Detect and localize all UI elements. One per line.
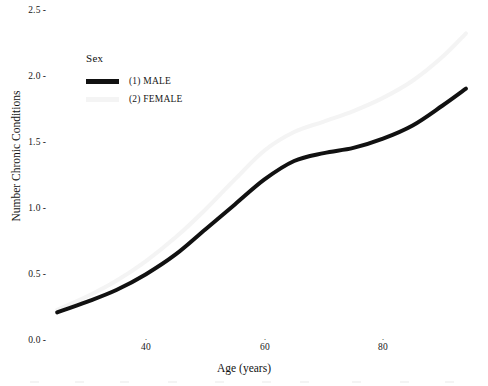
x-tick-40: · 40 (131, 337, 161, 352)
y-tick-dash: - (43, 5, 46, 15)
legend-item-female[interactable]: (2) FEMALE (86, 90, 246, 108)
y-tick-label: 1.0 (28, 203, 40, 213)
y-tick-0.0: 0.0- (0, 335, 46, 345)
scan-artifact-dot (215, 381, 224, 383)
y-tick-1.5: 1.5- (0, 137, 46, 147)
y-tick-label: 2.0 (28, 71, 40, 81)
legend-label-female: (2) FEMALE (129, 94, 182, 104)
chart-figure: 2.5- 2.0- 1.5- 1.0- 0.5- 0.0- · 40 · 60 … (0, 0, 488, 386)
legend-label-male: (1) MALE (129, 76, 171, 86)
x-tick-label: 60 (260, 342, 270, 352)
y-axis-title: Number Chronic Conditions (10, 56, 22, 256)
x-axis-title: Age (years) (0, 362, 488, 374)
y-tick-dash: - (43, 137, 46, 147)
legend-title: Sex (86, 52, 246, 64)
legend-swatch-female (86, 97, 119, 102)
y-tick-label: 1.5 (28, 137, 40, 147)
y-tick-dash: - (43, 71, 46, 81)
x-tick-80: · 80 (368, 337, 398, 352)
y-tick-dash: - (43, 203, 46, 213)
scan-artifact-dot (445, 381, 454, 383)
chart-legend: Sex (1) MALE (2) FEMALE (86, 52, 246, 108)
y-tick-0.5: 0.5- (0, 269, 46, 279)
y-tick-label: 0.5 (28, 269, 40, 279)
y-tick-label: 0.0 (28, 335, 40, 345)
scan-artifact-dot (262, 381, 271, 383)
scan-artifact-dot (168, 381, 177, 383)
scan-artifact-dot (400, 381, 409, 383)
y-tick-1.0: 1.0- (0, 203, 46, 213)
y-tick-label: 2.5 (28, 5, 40, 15)
page-scan-artifact (0, 381, 488, 384)
y-tick-dash: - (43, 269, 46, 279)
legend-item-male[interactable]: (1) MALE (86, 72, 246, 90)
scan-artifact-dot (120, 381, 129, 383)
y-tick-2.0: 2.0- (0, 71, 46, 81)
scan-artifact-dot (75, 381, 84, 383)
x-tick-60: · 60 (250, 337, 280, 352)
legend-swatch-male (86, 79, 119, 84)
y-tick-2.5: 2.5- (0, 5, 46, 15)
scan-artifact-dot (352, 381, 361, 383)
scan-artifact-dot (300, 381, 309, 383)
x-tick-label: 80 (378, 342, 388, 352)
y-tick-dash: - (43, 335, 46, 345)
x-tick-label: 40 (141, 342, 151, 352)
scan-artifact-dot (30, 381, 39, 383)
